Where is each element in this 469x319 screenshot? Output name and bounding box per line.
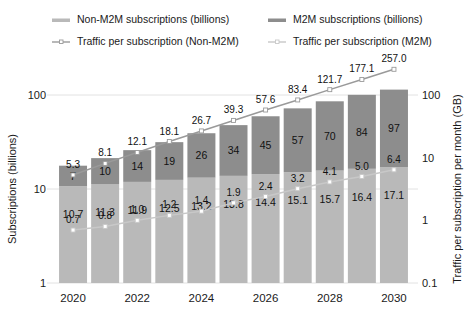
legend-marker [60,40,64,44]
line-marker-m2m [71,228,75,232]
line-label-m2m: 4.1 [323,166,337,177]
right-axis-tick: 100 [422,89,440,101]
line-label-m2m: 1.9 [227,187,241,198]
line-marker-m2m [360,175,364,179]
bar-label-m2m: 34 [228,144,240,156]
x-axis-tick: 2030 [381,292,407,304]
line-label-non-m2m: 177.1 [349,63,374,74]
line-marker-non-m2m [296,98,300,102]
right-axis-title: Traffic per subscription per month (GB) [451,94,463,284]
x-axis-tick: 2028 [317,292,343,304]
left-axis-title: Subscriptions (billions) [6,134,18,244]
bar-segment-non-m2m [59,186,87,283]
legend-item[interactable]: Traffic per subscription (Non-M2M) [52,35,239,47]
legend-label: M2M subscriptions (billions) [293,13,423,25]
telecom-subscriptions-traffic-chart: Non-M2M subscriptions (billions)M2M subs… [0,0,469,319]
x-axis-tick: 2026 [253,292,279,304]
chart-container: Non-M2M subscriptions (billions)M2M subs… [0,0,469,319]
bar-label-m2m: 70 [324,130,336,142]
right-axis-tick: 0.1 [422,277,437,289]
bar-segment-non-m2m [123,182,151,283]
line-marker-m2m [199,209,203,213]
bar-label-m2m: 84 [356,126,368,138]
line-label-m2m: 1.0 [130,204,144,215]
legend-item[interactable]: Non-M2M subscriptions (billions) [52,13,229,25]
x-axis: 202020222024202620282030 [60,292,407,304]
line-marker-non-m2m [167,140,171,144]
line-label-m2m: 0.8 [98,210,112,221]
line-label-m2m: 0.7 [66,214,80,225]
bar-segment-non-m2m [155,180,183,283]
bar-label-m2m: 10 [99,165,111,177]
legend-marker [276,40,280,44]
line-marker-non-m2m [199,129,203,133]
line-marker-m2m [328,180,332,184]
bar-segment-non-m2m [380,167,408,283]
line-marker-non-m2m [392,67,396,71]
bar-segment-non-m2m [187,178,215,283]
bar-label-m2m: 45 [260,139,272,151]
right-axis: 1001010.1Traffic per subscription per mo… [422,89,463,289]
line-marker-non-m2m [360,77,364,81]
line-marker-non-m2m [135,150,139,154]
legend-swatch-bar [52,19,70,23]
bar-label-m2m: 97 [388,122,400,134]
line-label-non-m2m: 39.3 [224,104,244,115]
line-marker-m2m [135,218,139,222]
legend-label: Non-M2M subscriptions (billions) [77,13,229,25]
line-marker-non-m2m [232,118,236,122]
legend-item[interactable]: Traffic per subscription (M2M) [268,35,432,47]
bar-segment-non-m2m [91,184,119,283]
line-label-non-m2m: 257.0 [381,53,406,64]
line-label-m2m: 5.0 [355,161,369,172]
line-marker-non-m2m [71,173,75,177]
line-marker-non-m2m [264,108,268,112]
line-label-non-m2m: 121.7 [317,74,342,85]
line-marker-m2m [264,195,268,199]
bar-label-m2m: 14 [131,160,143,172]
left-axis: 100101Subscriptions (billions) [6,89,46,289]
bar-label-m2m: 19 [163,155,175,167]
line-label-m2m: 2.4 [259,181,273,192]
line-label-non-m2m: 12.1 [127,136,147,147]
line-label-m2m: 3.2 [291,173,305,184]
legend-item[interactable]: M2M subscriptions (billions) [268,13,423,25]
legend-swatch-bar [268,19,286,23]
line-marker-m2m [103,224,107,228]
bar-segment-non-m2m [348,169,376,283]
line-label-non-m2m: 57.6 [256,94,276,105]
bar-label-m2m: 57 [292,134,304,146]
legend-label: Traffic per subscription (Non-M2M) [77,35,239,47]
line-label-m2m: 1.4 [194,195,208,206]
line-label-m2m: 1.2 [162,199,176,210]
line-label-m2m: 6.4 [387,154,401,165]
legend-label: Traffic per subscription (M2M) [293,35,432,47]
right-axis-tick: 10 [422,152,434,164]
bar-label-m2m: 26 [196,149,208,161]
bar-label-non-m2m: 15.7 [320,193,341,205]
left-axis-tick: 100 [28,89,46,101]
line-marker-m2m [392,168,396,172]
line-marker-m2m [167,213,171,217]
line-label-non-m2m: 18.1 [160,126,180,137]
line-label-non-m2m: 26.7 [192,115,212,126]
line-marker-non-m2m [103,161,107,165]
chart-legend: Non-M2M subscriptions (billions)M2M subs… [52,13,432,47]
line-marker-m2m [232,201,236,205]
line-marker-non-m2m [328,88,332,92]
x-axis-tick: 2024 [189,292,215,304]
line-label-non-m2m: 8.1 [98,147,112,158]
bar-label-non-m2m: 16.4 [352,191,373,203]
bar-segment-non-m2m [316,171,344,283]
left-axis-tick: 10 [34,183,46,195]
x-axis-tick: 2022 [124,292,150,304]
left-axis-tick: 1 [40,277,46,289]
line-marker-m2m [296,187,300,191]
bar-label-non-m2m: 17.1 [384,189,405,201]
bar-label-non-m2m: 15.1 [287,194,308,206]
right-axis-tick: 1 [422,214,428,226]
line-label-non-m2m: 5.3 [66,159,80,170]
line-label-non-m2m: 83.4 [288,84,308,95]
x-axis-tick: 2020 [60,292,86,304]
